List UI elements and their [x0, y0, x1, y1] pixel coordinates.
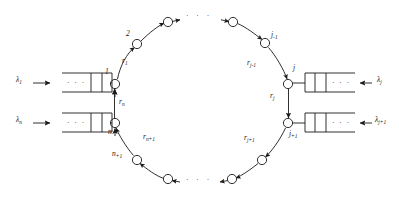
- arc-nodej1-nodej: [269, 48, 288, 80]
- arc-label-r-j-minus-1: rj-1: [247, 59, 256, 68]
- arc-label-r-n: rn: [119, 98, 125, 107]
- queue-j-buffer-dots: · · ·: [332, 79, 351, 87]
- node-j-circle: [283, 79, 292, 88]
- ring-network-drawing: [0, 0, 399, 202]
- arc-nodeb2-ellipsis: [220, 181, 228, 183]
- arc-node4-nodej1: [238, 24, 263, 40]
- node-label-j-plus-1: j+1: [289, 130, 297, 139]
- arc-label-r-1: r1: [122, 57, 128, 66]
- arc-ellipsis-node4: [221, 20, 229, 22]
- node-b3-circle: [163, 174, 172, 183]
- ellipsis-top: · · ·: [186, 12, 212, 20]
- arc-nodeb3-noden1: [140, 164, 164, 179]
- figure-canvas: λ1 λn λj λj+1 · · · · · · · · · · · · 1 …: [0, 0, 399, 202]
- node-label-1: 1: [105, 68, 109, 77]
- node-2-circle: [132, 39, 141, 48]
- arc-ellipsis-nodeb3: [172, 181, 180, 182]
- queue-n-buffer-dots: · · ·: [67, 119, 86, 127]
- queue-j+1-buffer-dots: · · ·: [332, 119, 351, 127]
- node-label-n: n: [108, 128, 112, 137]
- arrival-rate-label-n: λn: [16, 116, 22, 125]
- arrival-rate-label-j-plus-1: λj+1: [375, 116, 386, 125]
- node-3-circle: [163, 17, 172, 26]
- node-label-j-minus-1: j-1: [271, 31, 278, 40]
- arc-nodej1plus-nodeb1: [266, 128, 286, 157]
- node-j-1-circle: [260, 38, 269, 47]
- node-b1-circle: [257, 155, 266, 164]
- ring-nodes: [110, 17, 292, 183]
- arc-node2-node3: [141, 23, 164, 41]
- node-n+1-circle: [132, 155, 141, 164]
- node-4-circle: [228, 17, 237, 26]
- ellipsis-bottom: · · ·: [186, 176, 212, 184]
- node-label-2: 2: [126, 30, 130, 39]
- arc-label-r-j-plus-1: rj+1: [244, 134, 255, 143]
- arc-nodeb1-nodeb2: [236, 164, 258, 179]
- node-b2-circle: [227, 174, 236, 183]
- node-label-j: j: [293, 64, 295, 73]
- arc-node3-ellipsis: [172, 20, 180, 22]
- arrival-rate-label-j: λj: [377, 76, 382, 85]
- arc-label-r-n-plus-1: rn+1: [143, 133, 155, 142]
- node-label-n-plus-1: n+1: [112, 150, 122, 159]
- queue-1-buffer-dots: · · ·: [67, 79, 86, 87]
- node-j+1-circle: [283, 118, 292, 127]
- arrival-rate-label-1: λ1: [16, 76, 22, 85]
- arc-label-r-j: rj: [270, 92, 274, 101]
